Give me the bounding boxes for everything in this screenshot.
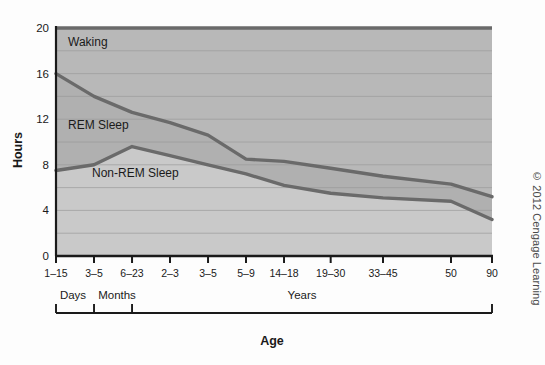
x-tick-label-group: 1–153–56–232–33–55–914–1819–3033–455090 [44, 267, 498, 279]
y-tick-label: 8 [43, 159, 49, 171]
y-tick-label-group: 048121620 [36, 22, 49, 262]
x-tick-label: 6–23 [120, 267, 144, 279]
y-tick-label: 4 [43, 204, 50, 216]
x-tick-label: 14–18 [269, 267, 298, 279]
x-tick-label: 33–45 [368, 267, 397, 279]
group-label-days: Days [60, 289, 86, 301]
y-tick-label: 16 [36, 68, 49, 80]
group-label-group: DaysMonthsYears [60, 289, 317, 301]
y-tick-label: 0 [43, 250, 49, 262]
group-bracket-group [56, 304, 492, 313]
x-axis-title: Age [260, 334, 284, 348]
x-tick-label: 3–5 [85, 267, 103, 279]
x-tick-label: 2–3 [161, 267, 179, 279]
band-label-rem: REM Sleep [68, 118, 129, 132]
group-label-years: Years [288, 289, 317, 301]
y-tick-label: 12 [36, 113, 49, 125]
group-label-months: Months [98, 289, 136, 301]
x-tick-label: 19–30 [316, 267, 345, 279]
band-label-waking: Waking [68, 35, 108, 49]
x-tick-label: 5–9 [237, 267, 255, 279]
y-tick-label: 20 [36, 22, 49, 34]
x-tick-label: 1–15 [44, 267, 68, 279]
copyright-notice: © 2012 Cengage Learning [531, 170, 543, 305]
y-axis-title: Hours [11, 132, 25, 168]
x-tick-label: 50 [445, 267, 457, 279]
sleep-across-lifespan-chart: 1–153–56–232–33–55–914–1819–3033–455090 … [0, 0, 545, 365]
x-tick-label: 3–5 [199, 267, 217, 279]
figure-container: 1–153–56–232–33–55–914–1819–3033–455090 … [0, 0, 545, 365]
x-tick-label: 90 [486, 267, 498, 279]
band-label-nonrem: Non-REM Sleep [92, 166, 179, 180]
